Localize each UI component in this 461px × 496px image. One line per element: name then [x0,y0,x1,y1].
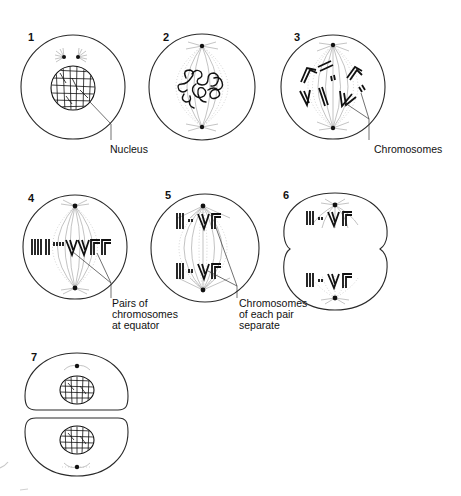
stage-number-6: 6 [283,189,289,201]
pairs-label-line-3: at equator [112,319,160,331]
chromosomes-label: Chromosomes [374,143,442,155]
cleaving-cell-membrane [284,193,387,310]
separating-chromosomes-bottom [177,263,221,279]
nucleus-label: Nucleus [110,143,148,155]
pairs-leader-line [73,252,111,298]
daughter-chromosomes-bottom [307,273,352,288]
stage-3: 3 [281,31,442,155]
nucleus [51,64,95,112]
stage-number-7: 7 [31,351,37,363]
centriole-pair [55,48,87,62]
chromosomes [300,61,365,106]
stage-number-4: 4 [28,192,35,204]
stage-number-3: 3 [294,31,300,43]
centriole-bottom [73,286,78,291]
cell-membrane [149,34,255,140]
stage-number-2: 2 [163,31,169,43]
nucleus-leader-line [90,102,111,140]
separate-leader-line [208,225,237,298]
centriole-top [331,43,335,47]
mitosis-diagram: 1 Nucleus 2 [0,0,461,496]
centriole-top [201,204,206,209]
daughter-chromosomes-top [307,211,352,226]
stage-1: 1 Nucleus [21,31,148,155]
centriole-bottom [333,296,338,301]
centriole-bottom [75,465,79,469]
spindle-fibres [308,43,358,130]
stage-4: 4 Pairs of chromosomes at equator [23,192,178,331]
centriole-top [200,44,204,48]
chromosome-pairs-at-equator [32,239,111,255]
paper-smudge [20,489,28,490]
spindle-fibres [176,42,228,131]
centriole-top [73,204,78,209]
stage-7: 7 [25,351,128,476]
stage-6: 6 [283,189,387,310]
separating-chromosomes-top [177,213,221,229]
paper-smudge [0,462,8,468]
stage-number-5: 5 [165,189,171,201]
centriole-bottom [200,125,204,129]
stage-number-1: 1 [28,31,34,43]
centriole-bottom [331,126,335,130]
nucleus-bottom [60,426,94,454]
centriole-bottom [201,288,206,293]
stage-2: 2 [149,31,255,140]
separate-label-line-3: separate [239,319,280,331]
nucleus-top [60,376,94,404]
centriole-top [333,203,338,208]
centriole-top [75,364,79,368]
